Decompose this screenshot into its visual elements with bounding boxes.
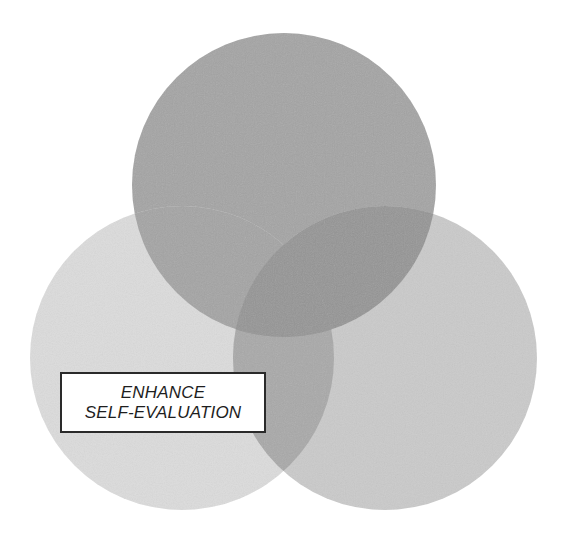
venn-diagram	[0, 0, 567, 547]
label-enhance-self-evaluation: ENHANCE SELF-EVALUATION	[60, 372, 266, 433]
label-line-2: SELF-EVALUATION	[85, 403, 242, 423]
label-line-1: ENHANCE	[121, 383, 206, 403]
